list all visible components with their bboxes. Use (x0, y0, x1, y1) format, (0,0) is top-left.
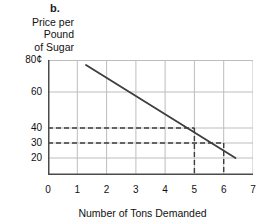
chart-svg (48, 60, 253, 175)
x-axis-title: Number of Tons Demanded (40, 207, 245, 219)
y-tick-label-30: 30 (2, 137, 42, 148)
x-tick-label-6: 6 (216, 184, 232, 195)
figure-panel-b: b. Price perPoundof Sugar (0, 0, 264, 223)
x-tick-label-5: 5 (186, 184, 202, 195)
y-axis-title-line-1: Price per (0, 16, 74, 28)
y-axis-title-line-2: Pound (0, 28, 74, 40)
y-axis-title: Price perPoundof Sugar (0, 16, 74, 53)
grid-horizontal (48, 61, 253, 159)
x-tick-label-1: 1 (69, 184, 85, 195)
plot-area (48, 60, 253, 175)
guide-line-40 (48, 128, 194, 175)
x-tick-label-0: 0 (40, 184, 56, 195)
x-tick-label-7: 7 (245, 184, 261, 195)
y-axis-title-line-3: of Sugar (0, 41, 74, 53)
panel-letter: b. (0, 2, 110, 14)
y-tick-label-60: 60 (2, 86, 42, 97)
x-tick-label-3: 3 (128, 184, 144, 195)
demand-line (86, 65, 236, 158)
x-tick-label-4: 4 (157, 184, 173, 195)
x-tick-label-2: 2 (99, 184, 115, 195)
y-tick-label-40: 40 (2, 122, 42, 133)
y-tick-label-20: 20 (2, 152, 42, 163)
y-tick-label-80: 80¢ (2, 54, 42, 65)
